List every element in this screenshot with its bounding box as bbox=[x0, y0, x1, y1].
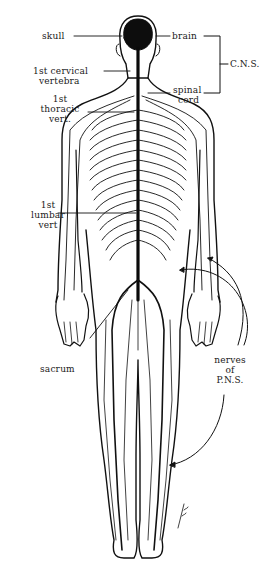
label-1st-lumbar-a: 1st bbox=[26, 200, 70, 210]
label-cns: C.N.S. bbox=[230, 59, 260, 69]
label-lumbar-vert: vert bbox=[26, 220, 70, 230]
label-skull: skull bbox=[42, 31, 65, 41]
left-hand bbox=[56, 294, 89, 346]
label-vertebra: vertebra bbox=[39, 76, 80, 86]
label-brain: brain bbox=[172, 31, 197, 41]
label-lumbar: lumbar bbox=[26, 210, 70, 220]
label-nerves: nerves bbox=[204, 355, 256, 365]
artist-signature bbox=[178, 504, 188, 528]
cns-bracket bbox=[204, 36, 228, 93]
right-hand bbox=[187, 294, 220, 346]
label-pns: P.N.S. bbox=[204, 375, 256, 385]
nervous-system-diagram: skull brain C.N.S. 1st cervical vertebra… bbox=[0, 0, 270, 570]
label-thoracic: thoracic bbox=[34, 104, 86, 114]
label-spinal: spinal bbox=[173, 85, 202, 95]
label-thoracic-vert: vert. bbox=[40, 114, 80, 124]
label-cord: cord bbox=[178, 95, 199, 105]
label-of: of bbox=[204, 365, 256, 375]
brain-shape bbox=[124, 19, 153, 50]
label-1st-thoracic-a: 1st bbox=[40, 94, 80, 104]
label-1st-cervical: 1st cervical bbox=[33, 66, 88, 76]
label-sacrum: sacrum bbox=[40, 364, 75, 374]
